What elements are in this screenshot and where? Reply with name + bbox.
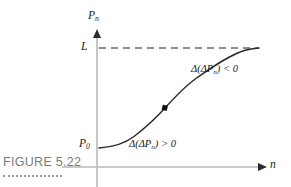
x-axis-label: n xyxy=(270,159,276,171)
y-axis-label: Pn xyxy=(88,10,99,23)
y-axis-arrowhead xyxy=(93,29,101,38)
concave-up-annotation-head: Δ(ΔP xyxy=(129,138,151,149)
limit-label: L xyxy=(81,41,87,53)
y-axis-label-subscript: n xyxy=(95,14,99,23)
concave-down-annotation-head: Δ(ΔP xyxy=(191,63,213,74)
inflection-point-marker xyxy=(162,105,168,111)
figure-container: Pn L P0 n Δ(ΔPn) < 0 Δ(ΔPn) > 0 FIGURE 5… xyxy=(0,0,291,187)
concave-down-annotation-tail: ) < 0 xyxy=(217,63,238,74)
concave-up-annotation-tail: ) > 0 xyxy=(155,138,176,149)
initial-value-label: P0 xyxy=(79,138,90,151)
concave-up-annotation: Δ(ΔPn) > 0 xyxy=(129,139,176,151)
figure-caption-rule xyxy=(3,175,62,179)
y-axis-label-base: P xyxy=(88,9,95,21)
figure-caption-block: FIGURE 5.22 xyxy=(3,156,81,179)
x-axis-arrowhead xyxy=(258,163,267,171)
figure-caption-text: FIGURE 5.22 xyxy=(3,156,81,170)
initial-value-label-base: P xyxy=(79,137,86,149)
initial-value-label-subscript: 0 xyxy=(86,142,90,151)
concave-down-annotation: Δ(ΔPn) < 0 xyxy=(191,64,238,76)
